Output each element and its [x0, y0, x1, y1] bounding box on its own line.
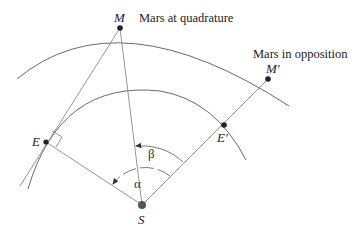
label-alpha: α: [134, 176, 141, 191]
label-S: S: [138, 212, 145, 227]
label-E-prime: E′: [216, 130, 228, 145]
mars-orbit-arc: [17, 43, 289, 106]
point-M-prime: [265, 76, 271, 82]
line-sun-earth: [46, 142, 142, 205]
mars-orbit-diagram: M Mars at quadrature Mars in opposition …: [0, 0, 357, 239]
sun-S: [138, 201, 146, 209]
label-E: E: [31, 134, 40, 149]
line-earth-mars-tangent: [20, 28, 120, 186]
angle-beta-arc: [136, 146, 183, 162]
label-mars-opposition: Mars in opposition: [253, 47, 348, 61]
point-M: [117, 25, 123, 31]
point-E: [43, 139, 48, 144]
label-mars-quadrature: Mars at quadrature: [139, 11, 234, 25]
line-sun-mars-opposition: [142, 79, 268, 205]
point-E-prime: [221, 122, 227, 128]
label-beta: β: [148, 146, 155, 161]
angle-alpha-arc: [113, 168, 170, 184]
label-M-prime: M′: [265, 61, 280, 76]
label-M: M: [113, 10, 126, 25]
